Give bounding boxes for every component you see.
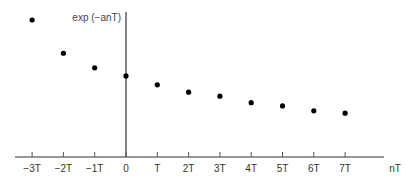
data-point	[92, 65, 97, 70]
data-point	[155, 82, 160, 87]
x-axis-label: nT	[389, 163, 401, 174]
x-ticks: −3T−2T−1T0T2T3T4T5T6T7T	[23, 152, 351, 174]
x-tick-label: 0	[123, 163, 129, 174]
data-point	[61, 51, 66, 56]
x-tick-label: 5T	[277, 163, 289, 174]
data-point	[186, 90, 191, 95]
data-point	[280, 103, 285, 108]
x-tick-label: −3T	[23, 163, 41, 174]
x-tick-label: 2T	[183, 163, 195, 174]
x-tick-label: −1T	[86, 163, 104, 174]
x-tick-label: 4T	[245, 163, 257, 174]
data-point	[123, 73, 128, 78]
x-tick-label: 7T	[339, 163, 351, 174]
data-point	[217, 94, 222, 99]
x-tick-label: T	[154, 163, 160, 174]
sequence-plot: exp (−anT) −3T−2T−1T0T2T3T4T5T6T7T nT	[0, 0, 407, 181]
data-point	[311, 108, 316, 113]
x-tick-label: 3T	[214, 163, 226, 174]
x-tick-label: −2T	[55, 163, 73, 174]
data-point	[343, 111, 348, 116]
data-points	[29, 17, 347, 115]
data-point	[249, 100, 254, 105]
data-point	[29, 17, 34, 22]
y-axis-label: exp (−anT)	[72, 12, 121, 23]
x-tick-label: 6T	[308, 163, 320, 174]
